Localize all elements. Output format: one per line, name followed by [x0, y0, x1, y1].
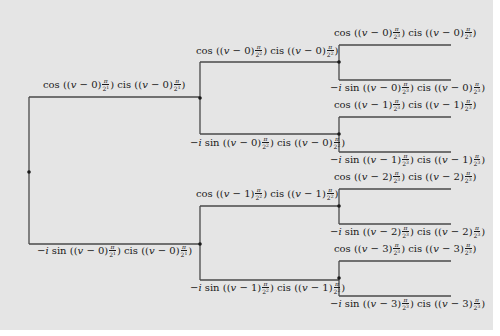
pi-fraction: π23 — [393, 242, 400, 256]
pi-fraction: π23 — [402, 153, 409, 167]
label-l1-top: cos ((v − 0)π21) cis ((v − 0)π21) — [43, 78, 185, 92]
pi-fraction: π22 — [327, 187, 334, 201]
pi-fraction: π23 — [474, 225, 481, 239]
pi-fraction: π22 — [255, 187, 262, 201]
edge-n01 — [339, 117, 451, 152]
label-l2-1-top: cos ((v − 1)π22) cis ((v − 1)π22) — [196, 187, 338, 201]
edge-n0 — [200, 62, 339, 134]
pi-fraction: π23 — [465, 98, 472, 112]
pi-fraction: π22 — [334, 136, 341, 150]
label-l3-3-bot: −i sin ((v − 3)π23) cis ((v − 3)π23) — [330, 297, 485, 311]
pi-fraction: π23 — [465, 26, 472, 40]
pi-fraction: π23 — [393, 26, 400, 40]
label-l3-2-bot: −i sin ((v − 2)π23) cis ((v − 2)π23) — [330, 225, 485, 239]
edge-n11 — [339, 261, 451, 296]
label-l2-0-top: cos ((v − 0)π22) cis ((v − 0)π22) — [196, 44, 338, 58]
label-l2-0-bot: −i sin ((v − 0)π22) cis ((v − 0)π22) — [190, 136, 345, 150]
pi-fraction: π23 — [393, 98, 400, 112]
pi-fraction: π23 — [393, 170, 400, 184]
pi-fraction: π23 — [402, 225, 409, 239]
pi-fraction: π22 — [262, 136, 269, 150]
node-n10 — [337, 204, 341, 208]
node-n1 — [198, 242, 202, 246]
label-l3-0-bot: −i sin ((v − 0)π23) cis ((v − 0)π23) — [330, 81, 485, 95]
pi-fraction: π23 — [474, 297, 481, 311]
node-n0 — [198, 96, 202, 100]
diagram-canvas: cos ((v − 0)π21) cis ((v − 0)π21) −i sin… — [0, 0, 493, 330]
pi-fraction: π23 — [465, 170, 472, 184]
pi-fraction: π23 — [402, 297, 409, 311]
label-l3-1-top: cos ((v − 1)π23) cis ((v − 1)π23) — [334, 98, 476, 112]
node-n00 — [337, 60, 341, 64]
pi-fraction: π22 — [262, 281, 269, 295]
label-l3-3-top: cos ((v − 3)π23) cis ((v − 3)π23) — [334, 242, 476, 256]
edge-n10 — [339, 189, 451, 224]
label-l3-1-bot: −i sin ((v − 1)π23) cis ((v − 1)π23) — [330, 153, 485, 167]
pi-fraction: π22 — [255, 44, 262, 58]
pi-fraction: π23 — [465, 242, 472, 256]
edge-n1 — [200, 206, 339, 280]
pi-fraction: π22 — [327, 44, 334, 58]
edge-root — [29, 97, 200, 244]
label-l3-2-top: cos ((v − 2)π23) cis ((v − 2)π23) — [334, 170, 476, 184]
node-root — [27, 170, 31, 174]
pi-fraction: π23 — [402, 81, 409, 95]
edge-n00 — [339, 45, 451, 80]
pi-fraction: π23 — [474, 153, 481, 167]
label-l1-bot: −i sin ((v − 0)π21) cis ((v − 0)π21) — [37, 244, 192, 258]
label-l2-1-bot: −i sin ((v − 1)π22) cis ((v − 1)π22) — [190, 281, 345, 295]
label-l3-0-top: cos ((v − 0)π23) cis ((v − 0)π23) — [334, 26, 476, 40]
pi-fraction: π23 — [474, 81, 481, 95]
pi-fraction: π21 — [174, 78, 181, 92]
pi-fraction: π21 — [181, 244, 188, 258]
pi-fraction: π21 — [109, 244, 116, 258]
pi-fraction: π21 — [102, 78, 109, 92]
pi-fraction: π22 — [334, 281, 341, 295]
